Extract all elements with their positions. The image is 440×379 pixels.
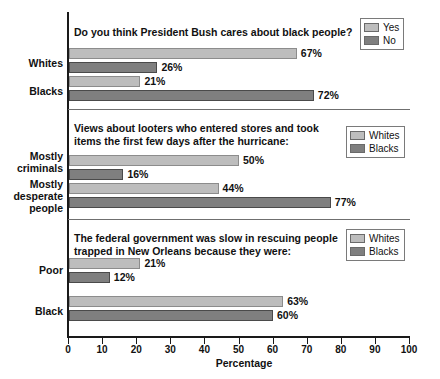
legend-panel-bush-cares: Yes No <box>360 18 404 50</box>
bar-value-label: 67% <box>301 48 322 59</box>
legend-swatch-blacks-icon <box>350 247 365 256</box>
category-label-black: Black <box>0 305 63 317</box>
bar-value-label: 12% <box>114 272 135 283</box>
bar-panel-federal-government-black-blacks <box>69 310 273 321</box>
bar-value-label: 77% <box>335 197 356 208</box>
panel-question-looters: Views about looters who entered stores a… <box>74 122 342 148</box>
x-axis-tick-label: 0 <box>53 344 83 356</box>
bar-value-label: 50% <box>243 155 264 166</box>
legend-label-no: No <box>383 35 396 46</box>
legend-label-yes: Yes <box>383 22 399 33</box>
legend-entry: Blacks <box>350 142 400 155</box>
bar-chart-figure: 0102030405060708090100 Percentage Do you… <box>0 0 440 379</box>
legend-swatch-no-icon <box>364 36 379 45</box>
legend-swatch-whites-icon <box>350 131 365 140</box>
bar-panel-federal-government-black-whites <box>69 296 283 307</box>
category-label-blacks: Blacks <box>0 85 63 97</box>
x-axis-tick-label: 30 <box>155 344 185 356</box>
bar-panel-looters-mostly-criminals-whites <box>69 155 239 166</box>
legend-panel-looters: Whites Blacks <box>346 126 405 158</box>
bar-value-label: 21% <box>144 258 165 269</box>
bar-panel-bush-cares-whites-yes <box>69 48 297 59</box>
x-axis-tick-label: 10 <box>87 344 117 356</box>
bar-panel-looters-mostly-desperate-people-whites <box>69 183 219 194</box>
x-axis-tick-label: 80 <box>326 344 356 356</box>
legend-entry: Yes <box>364 21 399 34</box>
panel-separator-1 <box>68 109 410 110</box>
legend-label-whites: Whites <box>369 130 400 141</box>
bar-panel-bush-cares-whites-no <box>69 62 157 73</box>
bar-value-label: 63% <box>287 296 308 307</box>
legend-swatch-yes-icon <box>364 23 379 32</box>
bar-value-label: 16% <box>127 169 148 180</box>
x-axis-tick-label: 100 <box>394 344 424 356</box>
bar-value-label: 72% <box>318 90 339 101</box>
legend-swatch-blacks-icon <box>350 144 365 153</box>
x-axis-tick-label: 90 <box>360 344 390 356</box>
legend-panel-federal-government: Whites Blacks <box>346 229 405 261</box>
legend-entry: Whites <box>350 129 400 142</box>
bar-panel-federal-government-poor-whites <box>69 258 140 269</box>
category-label-mostly-desperate-people: Mostlydesperatepeople <box>0 178 63 214</box>
bar-value-label: 60% <box>277 310 298 321</box>
legend-swatch-whites-icon <box>350 234 365 243</box>
bar-panel-bush-cares-blacks-no <box>69 90 314 101</box>
legend-label-whites: Whites <box>369 233 400 244</box>
bar-value-label: 21% <box>144 76 165 87</box>
bar-value-label: 44% <box>223 183 244 194</box>
x-axis-tick-label: 60 <box>258 344 288 356</box>
category-label-poor: Poor <box>0 264 63 276</box>
x-axis-tick-label: 20 <box>121 344 151 356</box>
panel-separator-2 <box>68 219 410 220</box>
bar-panel-federal-government-poor-blacks <box>69 272 110 283</box>
bar-panel-bush-cares-blacks-yes <box>69 76 140 87</box>
bar-panel-looters-mostly-criminals-blacks <box>69 169 123 180</box>
bar-value-label: 26% <box>161 62 182 73</box>
bar-panel-looters-mostly-desperate-people-blacks <box>69 197 331 208</box>
x-axis-tick-label: 40 <box>189 344 219 356</box>
panel-question-bush-cares: Do you think President Bush cares about … <box>74 26 370 39</box>
legend-label-blacks: Blacks <box>369 246 398 257</box>
legend-entry: No <box>364 34 399 47</box>
legend-label-blacks: Blacks <box>369 143 398 154</box>
legend-entry: Blacks <box>350 245 400 258</box>
panel-question-federal-government: The federal government was slow in rescu… <box>74 232 346 258</box>
x-axis-tick-label: 70 <box>292 344 322 356</box>
legend-entry: Whites <box>350 232 400 245</box>
x-axis-tick-label: 50 <box>224 344 254 356</box>
x-axis-title: Percentage <box>0 357 440 369</box>
category-label-whites: Whites <box>0 57 63 69</box>
category-label-mostly-criminals: Mostlycriminals <box>0 150 63 174</box>
